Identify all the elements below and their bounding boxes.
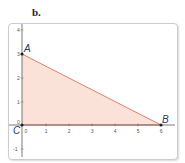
y-tick-label: 2 <box>17 75 20 81</box>
x-tick-label: 3 <box>91 128 94 134</box>
x-tick-label: 0 <box>25 128 28 134</box>
coordinate-plot: 0 1 2 3 4 5 6 4 3 2 1 0 -1 A B C <box>0 0 185 163</box>
x-tick-label: 4 <box>114 128 117 134</box>
y-tick-label: -1 <box>13 146 18 152</box>
point-a-label: A <box>23 43 31 54</box>
y-tick-label: 3 <box>17 51 20 57</box>
point-c-label: C <box>13 125 21 136</box>
x-tick-label: 5 <box>137 128 140 134</box>
point-b-label: B <box>162 114 169 125</box>
y-tick-label: 4 <box>17 27 20 33</box>
x-tick-label: 1 <box>45 128 48 134</box>
x-tick-label: 2 <box>68 128 71 134</box>
point-c <box>20 123 23 126</box>
y-tick-label: 1 <box>17 99 20 105</box>
x-tick-label: 6 <box>160 128 163 134</box>
